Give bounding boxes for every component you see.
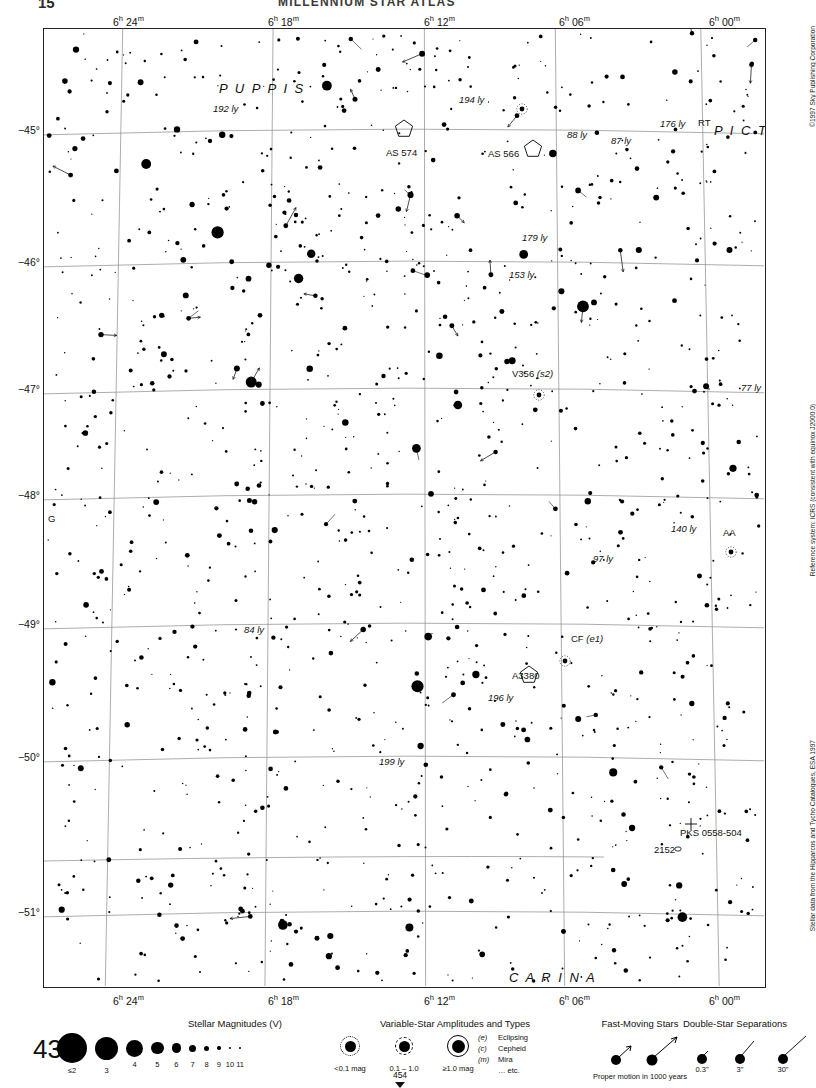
constellation-label: P I C T O R [714,123,766,138]
magnitude-dot [151,1042,164,1055]
ra-tick-label: 6h 24m [113,993,144,1007]
ra-tick-label: 6h 06m [559,14,590,28]
object-label: 88 ly [567,129,587,140]
header-page-number: 15 [38,0,55,11]
variable-type-entry: (m)Mira [478,1055,513,1064]
ra-tick-label: 6h 18m [268,993,299,1007]
dec-tick-label: −47° [0,383,40,395]
variable-amplitude-ring [395,1037,413,1055]
object-label: 199 ly [379,756,404,767]
magnitude-dot [239,1047,241,1049]
variable-type-entry: (e)Eclipsing [478,1033,528,1042]
object-label: G [48,513,55,524]
atlas-title: MILLENNIUM STAR ATLAS [278,0,456,9]
ra-tick-label: 6h 12m [424,993,455,1007]
object-label: RT [698,117,711,128]
page-header: 15 MILLENNIUM STAR ATLAS [0,0,811,14]
legend: 435 Stellar Magnitudes (V) ≤234567891011… [0,1012,811,1087]
object-label: V356 (s2) [512,368,553,379]
next-page-number: 454 [380,1070,420,1080]
double-star-icon [690,1032,810,1068]
variable-type-entry: … etc. [478,1066,520,1075]
object-label: CF (e1) [571,633,603,644]
object-label: 77 ly [741,382,761,393]
magnitude-dot [204,1046,209,1051]
magnitude-dot [57,1033,87,1063]
dec-tick-label: −51° [0,906,40,918]
object-label: 97 ly [593,553,613,564]
magnitude-dot [172,1043,182,1053]
double-separation-label: 30" [765,1065,801,1074]
ra-tick-label: 6h 12m [424,14,455,28]
ra-tick-label: 6h 24m [113,14,144,28]
object-label: AS 574 [386,147,417,158]
variable-type-entry: (c)Cepheid [478,1044,526,1053]
magnitude-dot [126,1040,143,1057]
object-label: AS 566 [488,148,519,159]
double-separation-label: 0.3" [684,1065,720,1074]
object-label: 179 ly [522,232,547,243]
magnitude-dot [229,1047,232,1050]
object-label: 87 ly [611,135,631,146]
special-objects [395,104,736,851]
dec-tick-label: −50° [0,751,40,763]
next-page-arrow-icon [395,1082,405,1088]
ra-tick-label: 6h 00m [709,993,740,1007]
object-label: A3380 [512,670,539,681]
ra-tick-label: 6h 00m [709,14,740,28]
dec-tick-label: −49° [0,618,40,630]
object-label: 192 ly [213,103,238,114]
object-label: 140 ly [671,523,696,534]
object-label: 153 ly [509,269,534,280]
legend-magnitudes-title: Stellar Magnitudes (V) [120,1018,350,1029]
magnitude-dot [95,1037,118,1060]
magnitude-dot [217,1046,221,1050]
ra-tick-label: 6h 18m [268,14,299,28]
constellation-label: P U P P I S [219,81,305,96]
magnitude-label: 11 [224,1060,256,1069]
object-label: 176 ly [660,118,685,129]
fastmoving-icon [600,1034,690,1068]
variable-amplitude-ring [447,1035,469,1057]
variable-amplitude-label: <0.1 mag [320,1064,380,1073]
object-label: 194 ly [459,94,484,105]
double-separation-label: 3" [722,1065,758,1074]
object-label: 196 ly [488,692,513,703]
coordinate-grid [44,29,764,986]
magnitude-dot [189,1045,196,1052]
object-label: AA [723,527,736,538]
ra-tick-label: 6h 06m [559,993,590,1007]
star-field [47,29,761,983]
object-label: 84 ly [244,624,264,635]
variable-amplitude-ring [340,1036,360,1056]
constellation-label: C A R I N A [509,970,597,985]
credit-data-source: Stellar data from the Hipparcos and Tych… [809,740,816,931]
dec-tick-label: −46° [0,256,40,268]
object-label: 2152 [654,844,675,855]
credit-reference-system: Reference system: ICRS (consistent with … [809,404,816,576]
dec-tick-label: −45° [0,124,40,136]
legend-doubles-title: Double-Star Separations [660,1018,810,1029]
object-label: PKS 0558-504 [680,827,742,838]
credit-copyright: ©1997 Sky Publishing Corporation [809,26,816,127]
star-chart[interactable]: P U P P I SP I C T O RC A R I N A192 ly1… [43,28,766,988]
legend-variables-title: Variable-Star Amplitudes and Types [320,1018,590,1029]
dec-tick-label: −48° [0,489,40,501]
sky-canvas [44,29,764,986]
magnitude-label: ≤2 [56,1066,88,1075]
